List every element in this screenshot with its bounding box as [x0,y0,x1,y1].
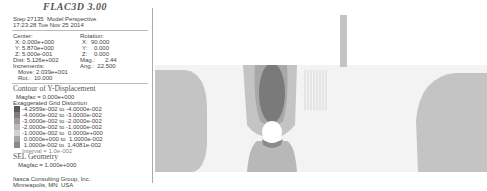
support-strip [340,15,347,67]
divider [12,30,148,31]
timestamp: 17:23:28 Tue Nov 25 2014 [13,22,84,28]
contour-title: Contour of Y-Displacement [13,86,96,92]
ang: Ang.: 22.500 [80,63,116,69]
model-view[interactable] [155,0,487,191]
legend-panel: FLAC3D 3.00 Step 27135 Model Perspective… [0,0,150,191]
model-mesh [155,65,487,172]
app-title: FLAC3D 3.00 [8,4,142,10]
sel-magfac: Magfac = 1.000e+000 [18,162,76,168]
legend-swatch [14,142,20,148]
sel-title: SEL Geometry [13,154,58,160]
panel-separator [152,8,153,183]
rot: Rot.: 10.000 [18,75,52,81]
contour-plot [155,65,487,172]
location: Minneapolis, MN USA [13,182,73,188]
